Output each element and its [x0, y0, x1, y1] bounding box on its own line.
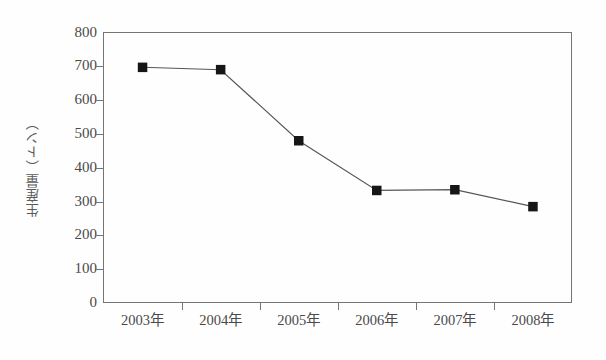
x-axis-tick-label: 2005年 — [257, 311, 341, 329]
y-axis-tick-label: 300 — [53, 194, 97, 209]
x-axis-tick-label: 2004年 — [179, 311, 263, 329]
y-axis-tick-labels: 8007006005004003002001000 — [45, 0, 97, 360]
y-axis-tick-label: 200 — [53, 227, 97, 242]
y-axis-tick-mark — [96, 235, 103, 236]
x-axis-tick-label: 2006年 — [335, 311, 419, 329]
x-axis-tick-mark — [338, 303, 339, 310]
x-axis-tick-label: 2007年 — [413, 311, 497, 329]
y-axis-tick-label: 400 — [53, 160, 97, 175]
x-axis-tick-label: 2003年 — [101, 311, 185, 329]
y-axis-tick-mark — [96, 100, 103, 101]
y-axis-tick-label: 700 — [53, 58, 97, 73]
y-axis-tick-label: 100 — [53, 261, 97, 276]
y-axis-tick-label: 800 — [53, 25, 97, 40]
y-axis-tick-mark — [96, 168, 103, 169]
y-axis-tick-label: 500 — [53, 126, 97, 141]
y-axis-tick-label: 0 — [53, 295, 97, 310]
plot-area-frame — [103, 32, 572, 303]
x-axis-tick-mark — [260, 303, 261, 310]
y-axis-tick-mark — [96, 134, 103, 135]
x-axis-tick-label: 2008年 — [491, 311, 575, 329]
y-axis-title: 生産量（トン） — [23, 92, 45, 240]
line-chart-figure: 生産量（トン） 8007006005004003002001000 2003年2… — [0, 0, 606, 360]
x-axis-tick-mark — [494, 303, 495, 310]
x-axis-tick-mark — [182, 303, 183, 310]
y-axis-tick-mark — [96, 66, 103, 67]
x-axis-tick-mark — [416, 303, 417, 310]
y-axis-tick-mark — [96, 202, 103, 203]
y-axis-tick-label: 600 — [53, 92, 97, 107]
y-axis-tick-mark — [96, 269, 103, 270]
